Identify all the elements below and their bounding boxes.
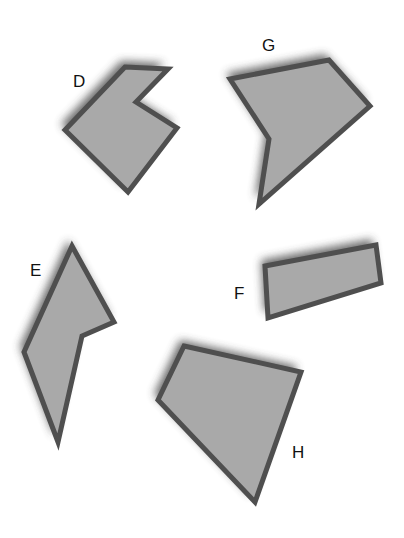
shape-label-f: F bbox=[234, 285, 244, 302]
shapes-canvas bbox=[0, 0, 404, 538]
shape-f bbox=[265, 245, 381, 318]
shape-label-e: E bbox=[30, 262, 41, 279]
shape-layer bbox=[24, 60, 381, 502]
shape-g bbox=[230, 60, 370, 204]
shape-label-d: D bbox=[73, 73, 85, 90]
shape-label-h: H bbox=[292, 444, 304, 461]
shape-label-g: G bbox=[262, 37, 275, 54]
shape-h bbox=[158, 346, 301, 502]
